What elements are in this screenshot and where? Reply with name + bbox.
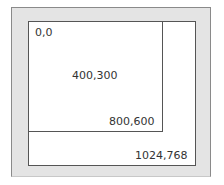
viewport-corner-label: 800,600 — [109, 116, 155, 128]
center-label: 400,300 — [72, 70, 118, 82]
origin-label: 0,0 — [35, 27, 53, 39]
screen-corner-label: 1024,768 — [135, 150, 188, 162]
